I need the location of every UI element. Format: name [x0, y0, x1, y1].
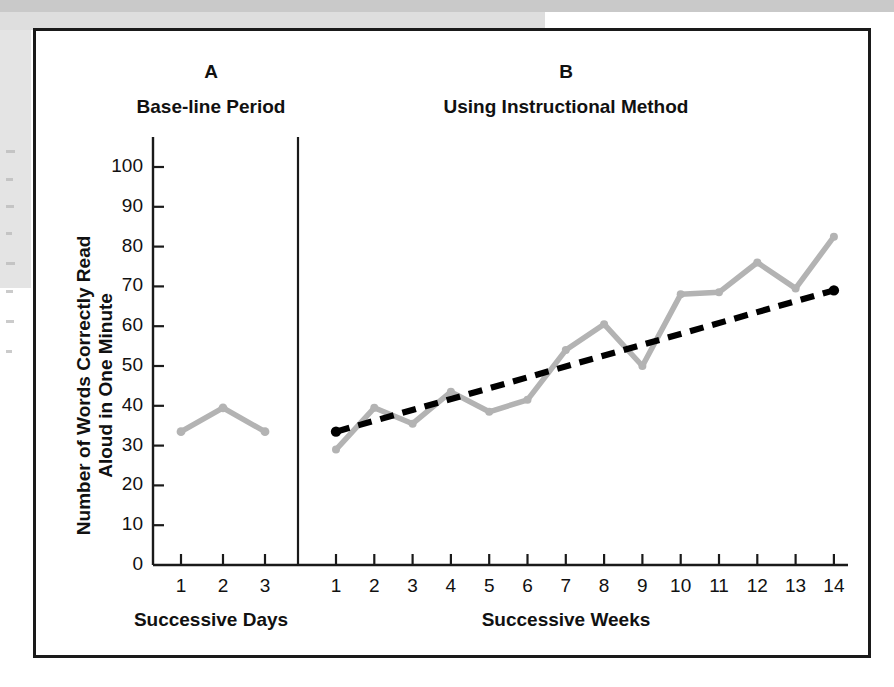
scan-artifact-top-band [0, 0, 894, 12]
y-tick-label-100: 100 [73, 155, 143, 177]
y-axis-title: Number of Words Correctly Read Aloud in … [73, 220, 118, 550]
y-tick-label-80: 80 [73, 235, 143, 257]
y-tick-label-60: 60 [73, 314, 143, 336]
panel-a-x-axis-title: Successive Days [111, 609, 311, 631]
y-tick-label-70: 70 [73, 274, 143, 296]
scan-fleck [6, 205, 14, 208]
panel-b-x-tick-label-3: 3 [393, 575, 433, 597]
plot-area [36, 31, 874, 661]
scan-fleck [6, 178, 13, 181]
scan-fleck [6, 262, 15, 265]
y-tick-label-40: 40 [73, 394, 143, 416]
panel-a-title: Base-line Period [111, 96, 311, 118]
scan-fleck [6, 150, 15, 153]
scan-fleck [6, 320, 14, 323]
chart-canvas [36, 31, 874, 661]
y-tick-label-0: 0 [73, 553, 143, 575]
panel-b-x-tick-label-12: 12 [737, 575, 777, 597]
y-tick-label-10: 10 [73, 513, 143, 535]
scan-artifact-left-block [0, 30, 31, 288]
panel-a-letter: A [151, 61, 271, 83]
panel-b-x-tick-label-8: 8 [584, 575, 624, 597]
y-tick-label-50: 50 [73, 354, 143, 376]
panel-a-x-tick-label-2: 2 [203, 575, 243, 597]
panel-a-x-tick-label-1: 1 [161, 575, 201, 597]
panel-b-x-tick-label-1: 1 [316, 575, 356, 597]
scan-fleck [6, 232, 12, 235]
scan-fleck [6, 290, 13, 293]
panel-b-x-tick-label-11: 11 [699, 575, 739, 597]
panel-b-x-tick-label-9: 9 [622, 575, 662, 597]
panel-b-x-tick-label-7: 7 [546, 575, 586, 597]
panel-b-x-axis-title: Successive Weeks [456, 609, 676, 631]
panel-b-x-tick-label-13: 13 [776, 575, 816, 597]
panel-b-x-tick-label-14: 14 [814, 575, 854, 597]
y-tick-label-90: 90 [73, 195, 143, 217]
figure-frame: Number of Words Correctly Read Aloud in … [33, 28, 871, 658]
y-tick-label-30: 30 [73, 434, 143, 456]
panel-b-x-tick-label-5: 5 [469, 575, 509, 597]
panel-a-x-tick-label-3: 3 [245, 575, 285, 597]
panel-b-letter: B [506, 61, 626, 83]
scan-fleck [6, 350, 12, 353]
panel-b-title: Using Instructional Method [436, 96, 696, 118]
panel-b-x-tick-label-4: 4 [431, 575, 471, 597]
panel-b-x-tick-label-6: 6 [508, 575, 548, 597]
panel-b-x-tick-label-2: 2 [354, 575, 394, 597]
y-tick-label-20: 20 [73, 473, 143, 495]
panel-b-x-tick-label-10: 10 [661, 575, 701, 597]
